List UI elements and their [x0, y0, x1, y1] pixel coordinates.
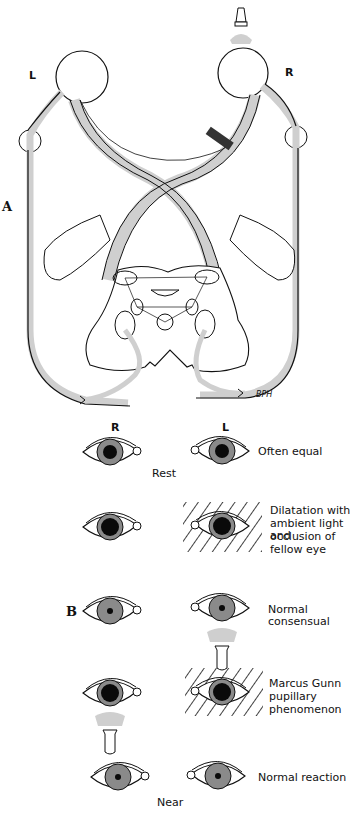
caption-dilatation-4: fellow eye — [270, 544, 326, 556]
right-eyeball — [218, 48, 268, 98]
flashlight-icon — [95, 712, 125, 754]
pupillary-pathway-diagram — [0, 0, 356, 420]
row-dilatation — [83, 502, 262, 552]
row-consensual — [83, 593, 249, 670]
panel-b-label: B — [66, 606, 77, 618]
column-header-left: L — [222, 422, 229, 434]
midbrain-outline — [86, 266, 249, 372]
row-rest — [83, 436, 249, 465]
sublabel-near: Near — [157, 797, 183, 809]
artist-signature: BPH — [256, 389, 272, 401]
right-eye-label: R — [285, 67, 293, 79]
caption-dilatation-3: occlusion of — [270, 531, 335, 543]
row-marcus-gunn — [83, 668, 263, 754]
sublabel-rest: Rest — [152, 468, 176, 480]
caption-consensual: Normal consensual — [268, 604, 356, 628]
caption-marcus-gunn-1: Marcus Gunn — [269, 678, 341, 690]
caption-near: Normal reaction — [258, 772, 346, 784]
left-eyeball — [56, 51, 108, 103]
caption-dilatation-1: Dilatation with — [270, 505, 350, 517]
caption-rest: Often equal — [258, 446, 322, 458]
flashlight-icon — [207, 628, 237, 670]
column-header-right: R — [111, 422, 119, 434]
caption-marcus-gunn-3: phenomenon — [269, 704, 342, 716]
row-near — [91, 761, 245, 790]
flashlight-icon — [230, 8, 252, 44]
left-eye-label: L — [29, 70, 36, 82]
panel-a-label: A — [2, 201, 12, 213]
caption-marcus-gunn-2: pupillary — [269, 691, 317, 703]
